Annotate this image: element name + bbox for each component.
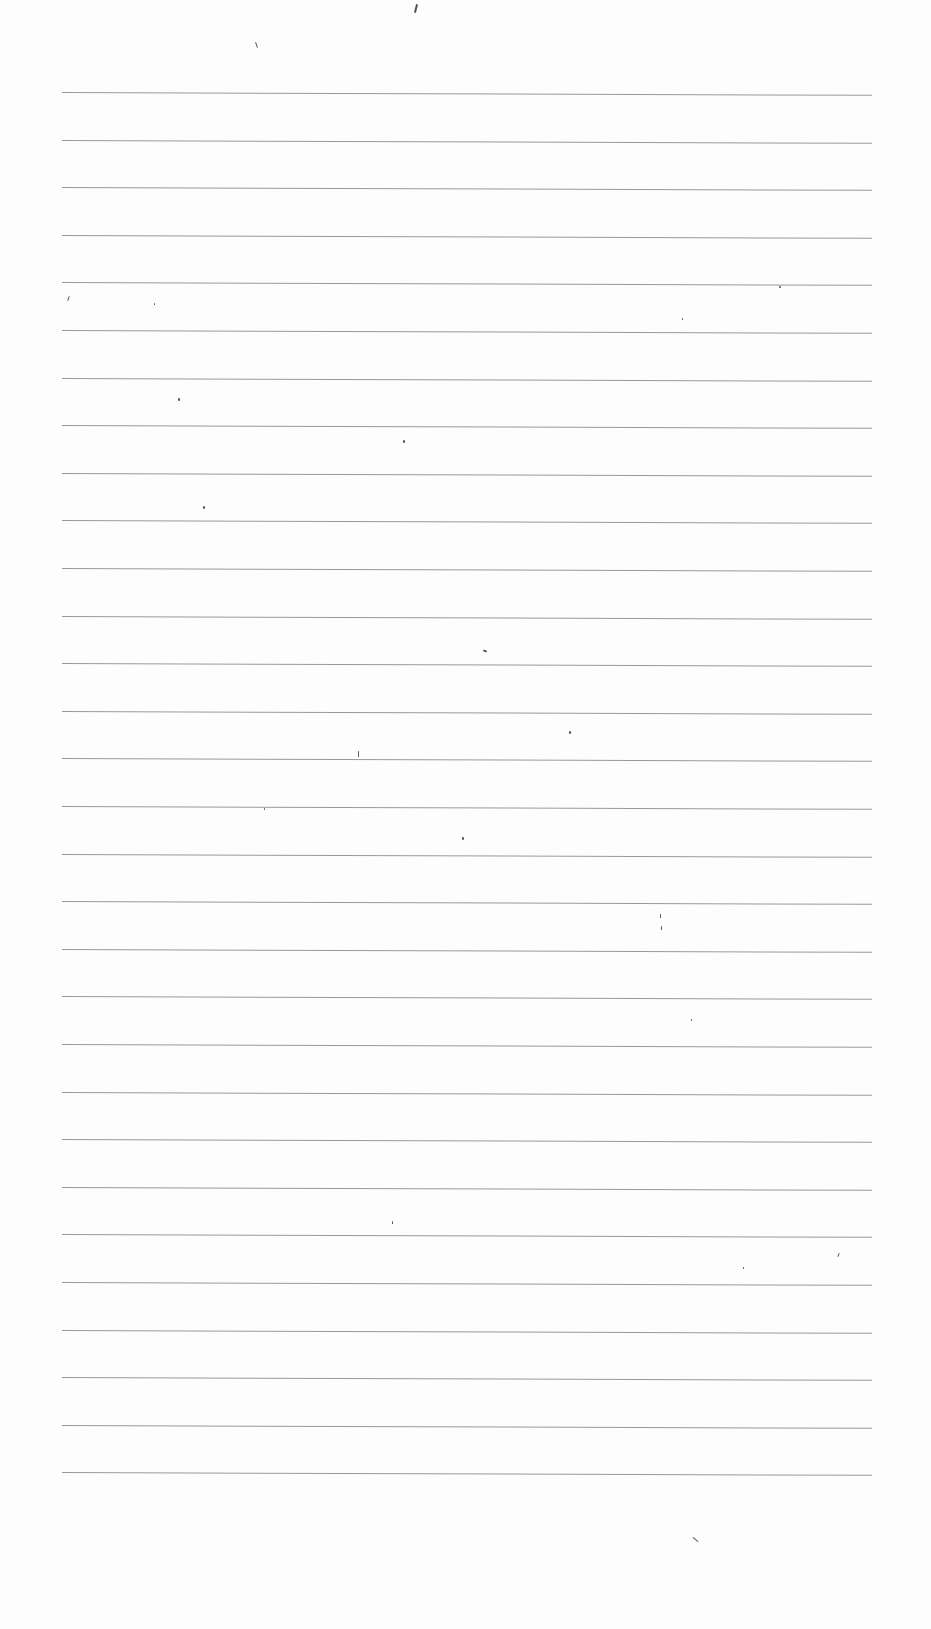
ruled-line xyxy=(62,949,872,953)
dust-speck xyxy=(779,286,781,288)
dust-speck xyxy=(691,1019,692,1021)
ruled-line xyxy=(62,473,872,477)
ruled-line xyxy=(62,235,872,239)
ruled-line xyxy=(62,520,872,524)
dust-speck xyxy=(682,318,683,320)
dust-speck xyxy=(692,1537,698,1542)
ruled-line xyxy=(62,1044,872,1048)
dust-speck xyxy=(661,926,662,930)
ruled-line xyxy=(62,901,872,905)
ruled-line xyxy=(62,1234,872,1238)
dust-speck xyxy=(358,751,359,757)
dust-speck xyxy=(255,42,258,48)
ruled-line xyxy=(62,711,872,715)
ruled-line xyxy=(62,1282,872,1286)
dust-speck xyxy=(837,1253,839,1257)
dust-speck xyxy=(414,4,418,13)
ruled-line xyxy=(62,378,872,382)
dust-speck xyxy=(743,1267,744,1269)
ruled-line xyxy=(62,187,872,191)
ruled-line xyxy=(62,663,872,667)
ruled-line xyxy=(62,616,872,620)
ruled-line xyxy=(62,854,872,858)
ruled-line xyxy=(62,425,872,429)
ruled-line xyxy=(62,568,872,572)
ruled-line xyxy=(62,92,872,96)
dust-speck xyxy=(660,914,661,918)
ruled-line xyxy=(62,282,872,286)
ruled-line xyxy=(62,806,872,810)
dust-speck xyxy=(178,398,180,401)
dust-speck xyxy=(462,837,464,840)
ruled-line xyxy=(62,1377,872,1381)
ruled-line xyxy=(62,758,872,762)
dust-speck xyxy=(264,808,265,810)
dust-speck xyxy=(392,1221,393,1224)
ruled-line xyxy=(62,1472,872,1476)
ruled-line xyxy=(62,140,872,144)
dust-speck xyxy=(203,506,205,509)
dust-speck xyxy=(154,303,155,305)
ruled-line xyxy=(62,1330,872,1334)
ruled-line xyxy=(62,330,872,334)
ruled-line xyxy=(62,1092,872,1096)
dust-speck xyxy=(67,296,70,301)
ruled-paper-sheet xyxy=(0,0,931,1629)
ruled-line xyxy=(62,1425,872,1429)
dust-speck xyxy=(569,731,571,734)
dust-speck xyxy=(483,649,487,652)
ruled-line xyxy=(62,1139,872,1143)
ruled-line xyxy=(62,996,872,1000)
ruled-line xyxy=(62,1187,872,1191)
dust-speck xyxy=(403,440,405,443)
